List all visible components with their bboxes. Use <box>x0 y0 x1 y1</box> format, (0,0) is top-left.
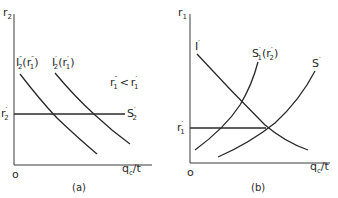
caption-a: (a) <box>72 182 86 193</box>
curve-label-s2-prime: S′2 <box>127 106 137 122</box>
x-axis-label-b: qc/t <box>310 160 330 175</box>
curve-label-i2-double-prime: I″2(r″1) <box>16 55 39 71</box>
x-axis-label-a: qc/t <box>122 162 142 177</box>
level-label-r1-prime: r′1 <box>177 120 185 136</box>
panel-a: r2 o qc/t (a) I″2(r″1) I′2(r′1) S′2 r′2 … <box>1 6 152 193</box>
curve-label-s-prime: S′ <box>312 56 321 70</box>
origin-label-a: o <box>12 168 19 181</box>
annotation-r1-inequality: r″1<r′1 <box>110 75 138 91</box>
curve-s1-prime <box>195 62 258 150</box>
figure: r2 o qc/t (a) I″2(r″1) I′2(r′1) S′2 r′2 … <box>0 0 338 198</box>
curve-label-s1-prime: S′1(r′2) <box>252 46 278 62</box>
caption-b: (b) <box>251 182 265 193</box>
curve-s-prime <box>218 71 315 157</box>
panel-b: r1 o qc/t (b) I′ S′1(r′2) S′ r′1 <box>177 6 330 193</box>
y-axis-label-b: r1 <box>178 6 187 21</box>
curve-label-i2-prime: I′2(r′1) <box>52 55 75 71</box>
origin-label-b: o <box>187 166 194 179</box>
y-axis-label-a: r2 <box>3 6 12 21</box>
level-label-r2-prime: r′2 <box>1 106 9 122</box>
curve-label-i-prime: I′ <box>195 39 200 53</box>
